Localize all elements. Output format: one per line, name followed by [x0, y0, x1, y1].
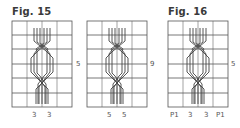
fig-15b-row-label: 9: [150, 60, 154, 68]
fig-16-row-label: 5: [231, 60, 235, 68]
fig-15a-bottom-label-2: 3: [47, 111, 51, 119]
fig-15a-row-label: 5: [76, 60, 80, 68]
fig-15b-bottom-label-1: 5: [107, 111, 111, 119]
fig-16-bottom-label-3: 3: [204, 111, 208, 119]
fig-15a-bottom-label-1: 3: [32, 111, 36, 119]
fig-15-chart-a: [12, 21, 72, 107]
fig-15b-bottom-label-2: 5: [122, 111, 126, 119]
fig-16-bottom-label-1: P1: [170, 111, 179, 119]
fig-15-chart-b: [87, 21, 147, 107]
cable-charts: [0, 0, 240, 128]
fig-16-chart: [168, 21, 228, 107]
fig-16-bottom-label-4: P1: [216, 111, 225, 119]
fig-16-bottom-label-2: 3: [188, 111, 192, 119]
